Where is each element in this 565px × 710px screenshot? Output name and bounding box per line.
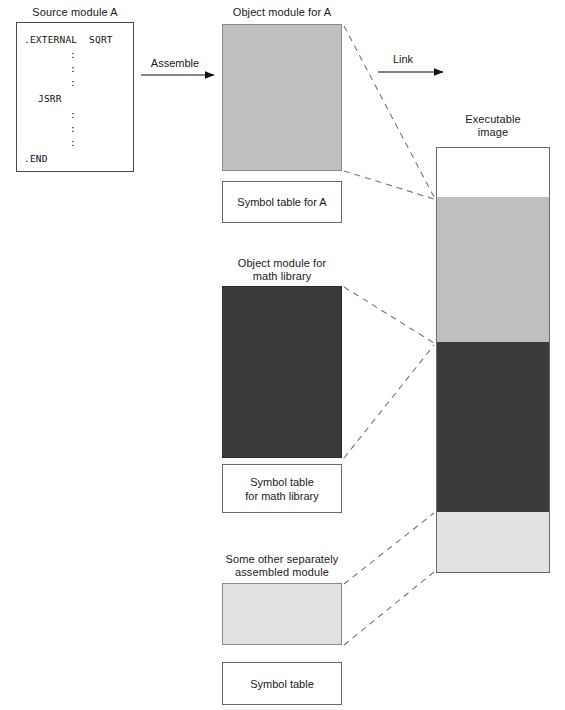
source-code-line-6: :	[70, 108, 76, 121]
source-code-line-1: .EXTERNAL SQRT	[24, 33, 113, 46]
connector-math-top	[344, 287, 434, 343]
connector-other-bottom	[344, 572, 434, 645]
source-code-line-9: .END	[24, 152, 48, 165]
linker-diagram: Source module A .EXTERNAL SQRT : : : JSR…	[0, 0, 565, 710]
object-module-a-box	[222, 24, 342, 171]
connector-module-a-top	[344, 26, 434, 197]
other-module-box	[222, 583, 342, 645]
source-code-line-4: :	[70, 76, 76, 89]
symbol-table-a-box	[222, 181, 342, 223]
source-module-title: Source module A	[16, 6, 134, 19]
source-code-line-3: :	[70, 62, 76, 75]
symbol-table-math-box	[222, 464, 342, 513]
executable-segment-module-a-code	[437, 197, 549, 342]
source-code-line-5: JSRR	[38, 92, 62, 105]
source-code-line-7: :	[70, 122, 76, 135]
connector-module-a-bottom	[344, 171, 434, 199]
executable-image-title: Executable image	[436, 113, 550, 139]
other-module-title: Some other separately assembled module	[208, 553, 356, 579]
connector-other-top	[344, 513, 434, 584]
object-module-math-title: Object module for math library	[222, 257, 342, 283]
assemble-arrow-label: Assemble	[140, 57, 210, 69]
executable-segment-unfilled-top	[437, 148, 549, 197]
link-arrow-label: Link	[378, 53, 428, 65]
executable-segment-math-library-code	[437, 342, 549, 512]
object-module-math-box	[222, 286, 342, 458]
object-module-a-title: Object module for A	[222, 6, 342, 19]
connector-math-bottom	[344, 345, 434, 458]
executable-segment-other-module-code	[437, 512, 549, 572]
symbol-table-other-box	[222, 662, 342, 705]
source-code-line-2: :	[70, 48, 76, 61]
source-code-line-8: :	[70, 136, 76, 149]
